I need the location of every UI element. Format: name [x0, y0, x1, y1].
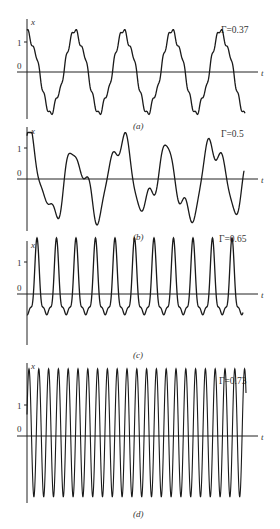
tick-label-one: 1	[17, 258, 22, 268]
gamma-label: Γ=0.37	[221, 25, 249, 35]
tick-label-zero: 0	[17, 283, 22, 293]
x-axis-label: t	[261, 290, 264, 300]
gamma-label: Γ=0.73	[219, 376, 247, 386]
figure: x 1 0 t Γ=0.37 (a) x 1 0 t Γ=0.5 (b) x 1…	[0, 0, 280, 529]
panel-c: x 1 0 t Γ=0.65 (c)	[17, 234, 264, 360]
panel-a: x 1 0 t Γ=0.37 (a)	[17, 17, 264, 131]
tick-label-zero: 0	[17, 424, 22, 434]
waveform-line	[27, 238, 243, 315]
tick-label-one: 1	[17, 401, 22, 411]
x-axis-label: t	[261, 175, 264, 185]
tick-label-zero: 0	[17, 61, 22, 71]
panel-b: x 1 0 t Γ=0.5 (b)	[17, 126, 264, 242]
tick-label-zero: 0	[17, 168, 22, 178]
x-axis-label: t	[261, 432, 264, 442]
panel-label: (c)	[133, 350, 143, 360]
y-axis-label: x	[30, 17, 35, 27]
y-axis-label: x	[30, 361, 35, 371]
panel-label: (a)	[133, 121, 144, 131]
panel-d: x 1 0 t Γ=0.73 (d)	[17, 361, 264, 519]
tick-label-one: 1	[17, 38, 22, 48]
waveform-line	[27, 369, 246, 497]
x-axis-label: t	[261, 68, 264, 78]
gamma-label: Γ=0.5	[221, 129, 244, 139]
y-axis-label: x	[30, 240, 35, 250]
panel-label: (d)	[133, 509, 144, 519]
tick-label-one: 1	[17, 144, 22, 154]
